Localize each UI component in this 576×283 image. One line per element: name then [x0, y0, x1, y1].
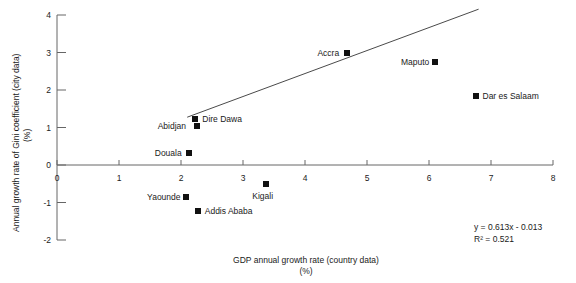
data-point-label: Dar es Salaam — [483, 92, 539, 101]
data-point-label: Maputo — [401, 58, 429, 67]
y-tick-label: 2 — [23, 86, 51, 95]
trendline-annotation: y = 0.613x - 0.013 R² = 0.521 — [474, 221, 542, 246]
data-point-label: Abidjan — [158, 122, 186, 131]
data-point-marker — [473, 93, 479, 99]
y-tick-label: 3 — [23, 49, 51, 58]
data-point-marker — [192, 116, 198, 122]
data-point-marker — [186, 150, 192, 156]
x-tick-label: 8 — [538, 174, 568, 183]
data-point-marker — [195, 208, 201, 214]
y-tick-label: 0 — [23, 161, 51, 170]
x-tick-label: 7 — [476, 174, 506, 183]
trendline-equation: y = 0.613x - 0.013 — [474, 221, 542, 233]
data-point-marker — [263, 181, 269, 187]
x-tick-label: 1 — [104, 174, 134, 183]
data-point-label: Addis Ababa — [205, 207, 253, 216]
data-point-marker — [344, 50, 350, 56]
data-point-label: Douala — [155, 149, 182, 158]
scatter-chart: 01234567843210-1-2AccraMaputoDar es Sala… — [0, 0, 576, 283]
x-axis-unit: (%) — [186, 266, 426, 277]
data-point-marker — [432, 59, 438, 65]
data-point-label: Accra — [317, 49, 339, 58]
y-tick-label: 4 — [23, 11, 51, 20]
y-tick-label: -2 — [23, 236, 51, 245]
x-tick-label: 5 — [352, 174, 382, 183]
trendline-r-squared: R² = 0.521 — [474, 233, 542, 245]
y-tick-label: -1 — [23, 199, 51, 208]
y-axis-unit: (%) — [22, 129, 32, 142]
data-point-marker — [183, 194, 189, 200]
x-tick-label: 6 — [414, 174, 444, 183]
data-point-label: Kigali — [252, 192, 273, 201]
data-point-label: Yaounde — [147, 193, 180, 202]
x-tick-label: 0 — [42, 174, 72, 183]
y-axis-title: Annual growth rate of Gini coefficient (… — [11, 54, 21, 232]
x-axis-title: GDP annual growth rate (country data) — [186, 255, 426, 266]
x-tick-label: 4 — [290, 174, 320, 183]
x-tick-label: 3 — [228, 174, 258, 183]
x-tick-label: 2 — [166, 174, 196, 183]
data-point-label: Dire Dawa — [202, 115, 242, 124]
data-point-marker — [194, 123, 200, 129]
